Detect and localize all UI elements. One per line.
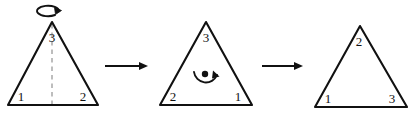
- vertex-label-bottom-right: 1: [235, 89, 242, 104]
- vertex-label-bottom-right: 3: [389, 91, 396, 106]
- vertex-label-bottom-right: 2: [80, 89, 87, 104]
- flip-loop-arrow-icon: [37, 6, 61, 16]
- vertex-label-top: 2: [356, 34, 363, 49]
- vertex-label-bottom-left: 1: [325, 91, 332, 106]
- arrow-one-head: [139, 62, 148, 70]
- initial-triangle: 3 1 2: [8, 6, 98, 105]
- rotation-arc-arrowhead: [212, 71, 220, 79]
- rotation-center-dot: [202, 71, 208, 77]
- vertex-label-bottom-left: 2: [170, 89, 177, 104]
- arrow-one: [105, 62, 148, 70]
- rotated-triangle: 2 1 3: [315, 26, 407, 107]
- rotation-arc-arrow-icon: [194, 71, 220, 83]
- arrow-two: [262, 62, 303, 70]
- figure-canvas: 3 1 2 3 2 1: [0, 0, 414, 118]
- vertex-label-top: 3: [203, 30, 210, 45]
- arrow-two-head: [294, 62, 303, 70]
- flipped-triangle: 3 2 1: [160, 22, 252, 105]
- vertex-label-bottom-left: 1: [18, 89, 25, 104]
- vertex-label-top: 3: [49, 30, 56, 45]
- triangle-symmetry-figure: 3 1 2 3 2 1: [0, 0, 414, 118]
